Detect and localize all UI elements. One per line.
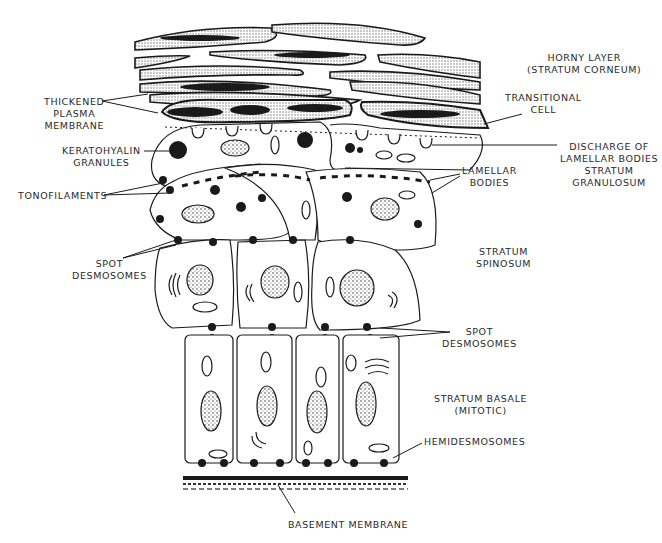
label-basement-membrane: BASEMENT MEMBRANE [288, 519, 408, 531]
epidermis-diagram: HORNY LAYER (STRATUM CORNEUM) THICKENED … [0, 0, 662, 543]
label-stratum-basale: STRATUM BASALE (MITOTIC) [434, 393, 527, 417]
label-horny-layer: HORNY LAYER (STRATUM CORNEUM) [527, 52, 641, 76]
granulosum-organelles [221, 136, 415, 162]
basement-membrane [183, 476, 408, 489]
label-keratohyalin-granules: KERATOHYALIN GRANULES [62, 145, 141, 169]
label-hemidesmosomes: HEMIDESMOSOMES [424, 436, 525, 448]
label-tonofilaments: TONOFILAMENTS [18, 190, 107, 202]
label-transitional-cell: TRANSITIONAL CELL [505, 92, 582, 116]
label-spot-desmosomes-left: SPOT DESMOSOMES [72, 258, 147, 282]
label-lamellar-bodies: LAMELLAR BODIES [462, 165, 517, 189]
label-discharge-lamellar-bodies: DISCHARGE OF LAMELLAR BODIES STRATUM GRA… [560, 141, 658, 189]
label-stratum-spinosum: STRATUM SPINOSUM [476, 246, 531, 270]
label-spot-desmosomes-right: SPOT DESMOSOMES [442, 326, 517, 350]
label-thickened-plasma-membrane: THICKENED PLASMA MEMBRANE [44, 96, 104, 132]
